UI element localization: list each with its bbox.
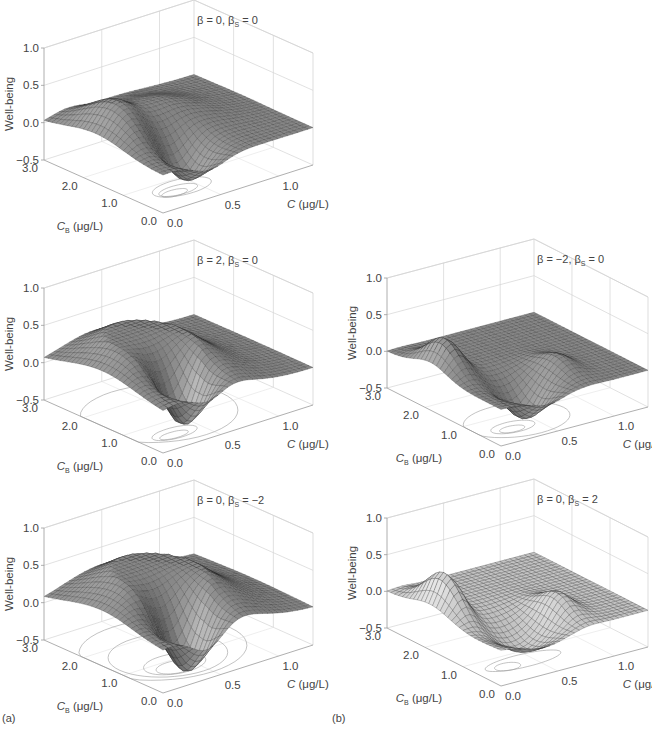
chart-a2: 1.00.50.0−0.5Well-being0.01.02.03.0CB (μ… — [0, 240, 326, 480]
figure-label-a: (a) — [2, 712, 15, 724]
z-tick-label: 0.5 — [23, 79, 39, 91]
c-tick-label: 0.0 — [505, 450, 521, 462]
cb-tick-label: 1.0 — [441, 669, 457, 681]
cb-tick-label: 3.0 — [22, 402, 38, 414]
cb-axis-label: CB (μg/L) — [396, 452, 443, 466]
cb-tick-label: 1.0 — [101, 677, 117, 689]
c-tick-label: 0.0 — [167, 217, 183, 229]
z-tick-label: 0.5 — [23, 319, 39, 331]
cb-tick-label: 1.0 — [101, 197, 117, 209]
surface-mesh — [44, 75, 313, 181]
z-tick-label: 1.0 — [23, 522, 39, 534]
cb-axis-label: CB (μg/L) — [57, 700, 104, 714]
z-axis-label: Well-being — [3, 77, 15, 131]
c-tick-label: 1.0 — [618, 660, 634, 672]
cb-tick-label: 0.0 — [141, 215, 157, 227]
z-tick-label: 1.0 — [23, 282, 39, 294]
surface-plot: 1.00.50.0−0.5Well-being0.01.02.03.0CB (μ… — [326, 240, 652, 480]
cb-tick-label: 2.0 — [403, 409, 419, 421]
c-axis-label: C (μg/L) — [287, 198, 329, 210]
z-tick-label: 0.5 — [23, 559, 39, 571]
cb-tick-label: 0.0 — [141, 695, 157, 707]
cb-tick-label: 2.0 — [62, 180, 78, 192]
cb-tick-label: 1.0 — [101, 437, 117, 449]
c-tick-label: 1.0 — [282, 180, 298, 192]
z-axis-label: Well-being — [3, 557, 15, 611]
z-tick-label: 0.0 — [23, 357, 39, 369]
panel-title: β = 0, βS = 2 — [537, 493, 598, 507]
z-axis-label: Well-being — [346, 306, 358, 360]
z-axis-label: Well-being — [346, 546, 358, 600]
cb-tick-label: 2.0 — [62, 660, 78, 672]
c-tick-label: 0.0 — [167, 457, 183, 469]
z-tick-label: 0.5 — [366, 549, 382, 561]
c-tick-label: 0.5 — [225, 439, 241, 451]
panel-title: β = 2, βS = 0 — [197, 254, 258, 268]
z-tick-label: 0.0 — [366, 585, 382, 597]
z-tick-label: 0.0 — [23, 597, 39, 609]
c-axis-label: C (μg/L) — [287, 678, 329, 690]
z-tick-label: 0.0 — [366, 345, 382, 357]
surface-mesh — [387, 312, 648, 418]
c-axis-label: C (μg/L) — [287, 438, 329, 450]
cb-tick-label: 0.0 — [141, 455, 157, 467]
z-tick-label: 1.0 — [23, 42, 39, 54]
cb-tick-label: 2.0 — [62, 420, 78, 432]
c-tick-label: 0.5 — [225, 199, 241, 211]
cb-axis-label: CB (μg/L) — [396, 692, 443, 706]
z-tick-label: 1.0 — [366, 512, 382, 524]
chart-a3: 1.00.50.0−0.5Well-being0.01.02.03.0CB (μ… — [0, 480, 326, 720]
c-axis-label: C (μg/L) — [623, 678, 652, 690]
c-tick-label: 0.0 — [167, 697, 183, 709]
c-tick-label: 0.5 — [225, 679, 241, 691]
surface-plot: 1.00.50.0−0.5Well-being0.01.02.03.0CB (μ… — [326, 480, 652, 720]
surface-mesh — [387, 552, 648, 652]
c-tick-label: 1.0 — [282, 420, 298, 432]
c-axis-label: C (μg/L) — [623, 438, 652, 450]
figure-label-b: (b) — [332, 712, 345, 724]
floor-contours — [152, 177, 211, 198]
surface-mesh — [44, 315, 313, 425]
cb-axis-label: CB (μg/L) — [57, 220, 104, 234]
panel-title: β = −2, βS = 0 — [537, 253, 604, 267]
cb-tick-label: 1.0 — [441, 429, 457, 441]
chart-b2: 1.00.50.0−0.5Well-being0.01.02.03.0CB (μ… — [326, 480, 652, 720]
chart-a1: 1.00.50.0−0.5Well-being0.01.02.03.0CB (μ… — [0, 0, 326, 240]
z-tick-label: 0.0 — [23, 117, 39, 129]
cb-tick-label: 2.0 — [403, 649, 419, 661]
cb-tick-label: 3.0 — [22, 162, 38, 174]
cb-tick-label: 3.0 — [22, 642, 38, 654]
c-tick-label: 0.5 — [562, 675, 578, 687]
c-tick-label: 1.0 — [618, 420, 634, 432]
c-tick-label: 0.5 — [562, 435, 578, 447]
panel-title: β = 0, βS = 0 — [197, 14, 258, 28]
c-tick-label: 0.0 — [505, 690, 521, 702]
surface-plot: 1.00.50.0−0.5Well-being0.01.02.03.0CB (μ… — [0, 480, 326, 720]
z-axis-label: Well-being — [3, 317, 15, 371]
surface-plot: 1.00.50.0−0.5Well-being0.01.02.03.0CB (μ… — [0, 0, 326, 240]
surface-plot: 1.00.50.0−0.5Well-being0.01.02.03.0CB (μ… — [0, 240, 326, 480]
cb-tick-label: 3.0 — [365, 390, 381, 402]
cb-tick-label: 0.0 — [479, 448, 495, 460]
cb-tick-label: 3.0 — [365, 630, 381, 642]
cb-axis-label: CB (μg/L) — [57, 460, 104, 474]
z-tick-label: 1.0 — [366, 272, 382, 284]
chart-b1: 1.00.50.0−0.5Well-being0.01.02.03.0CB (μ… — [326, 240, 652, 480]
z-tick-label: 0.5 — [366, 309, 382, 321]
cb-tick-label: 0.0 — [479, 688, 495, 700]
panel-title: β = 0, βS = −2 — [197, 494, 264, 508]
c-tick-label: 1.0 — [282, 660, 298, 672]
